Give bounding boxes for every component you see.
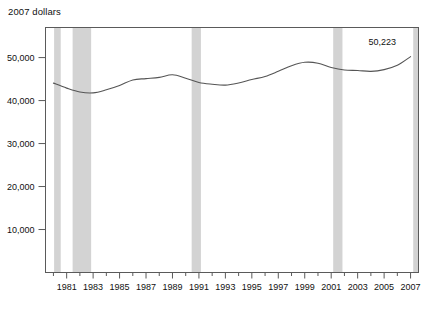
- recession-band: [192, 28, 201, 273]
- chart-canvas: 10,00020,00030,00040,00050,0001981198319…: [0, 0, 444, 312]
- x-axis-tick-label: 1983: [83, 282, 103, 292]
- x-axis-tick-label: 1981: [57, 282, 77, 292]
- x-axis-tick-label: 1991: [189, 282, 209, 292]
- x-axis-tick-label: 1995: [242, 282, 262, 292]
- recession-band: [54, 28, 61, 273]
- recession-band: [333, 28, 342, 273]
- x-axis-tick-label: 2005: [374, 282, 394, 292]
- income-data-line: [53, 57, 410, 93]
- y-axis-tick-label: 20,000: [7, 182, 35, 192]
- recession-band: [413, 28, 418, 273]
- plot-frame: [46, 28, 419, 273]
- x-axis-tick-label: 2003: [348, 282, 368, 292]
- x-axis-tick-label: 1997: [268, 282, 288, 292]
- x-axis-tick-label: 1987: [136, 282, 156, 292]
- x-axis-tick-label: 1999: [295, 282, 315, 292]
- recession-band: [73, 28, 92, 273]
- endpoint-value-annotation: 50,223: [369, 37, 397, 47]
- y-axis-tick-label: 30,000: [7, 139, 35, 149]
- x-axis-tick-label: 1985: [110, 282, 130, 292]
- y-axis-tick-label: 40,000: [7, 96, 35, 106]
- x-axis-tick-label: 1993: [215, 282, 235, 292]
- x-axis-tick-label: 2001: [321, 282, 341, 292]
- y-axis-tick-label: 10,000: [7, 225, 35, 235]
- x-axis-tick-label: 1989: [162, 282, 182, 292]
- y-axis-tick-label: 50,000: [7, 53, 35, 63]
- x-axis-tick-label: 2007: [401, 282, 421, 292]
- income-line-chart: 2007 dollars 10,00020,00030,00040,00050,…: [0, 0, 444, 312]
